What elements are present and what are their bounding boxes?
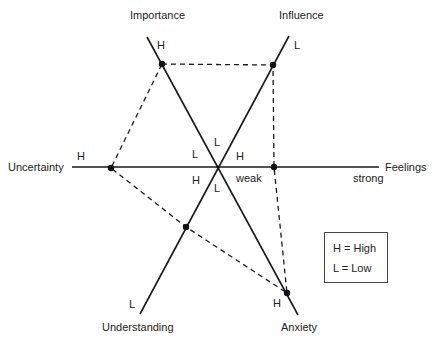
center-label-lower-left: H <box>192 174 200 186</box>
understanding-end-label: L <box>129 298 135 310</box>
center-label-upper-left: L <box>192 148 198 160</box>
center-label-weak: weak <box>235 172 262 184</box>
legend: H = High L = Low <box>325 233 388 283</box>
influence-label: Influence <box>279 9 324 21</box>
anxiety-point <box>284 290 290 296</box>
center-label-bottom: L <box>214 182 220 194</box>
importance-point <box>159 61 165 67</box>
center-point <box>216 165 219 168</box>
anxiety-label: Anxiety <box>281 321 318 333</box>
legend-low: L = Low <box>333 262 371 274</box>
understanding-label: Understanding <box>102 321 174 333</box>
feelings-end-label: strong <box>353 172 384 184</box>
feelings-label: Feelings <box>385 161 427 173</box>
influence-end-label: L <box>294 39 300 51</box>
anxiety-end-label: H <box>273 297 281 309</box>
legend-box <box>325 233 388 283</box>
importance-anxiety-axis <box>147 37 298 315</box>
feelings-point <box>271 164 277 170</box>
uncertainty-label: Uncertainty <box>8 161 64 173</box>
uncertainty-end-label: H <box>77 150 85 162</box>
uncertainty-point <box>108 165 114 171</box>
influence-understanding-axis <box>140 36 289 314</box>
influence-point <box>270 62 276 68</box>
importance-end-label: H <box>157 39 165 51</box>
center-label-upper-right: H <box>236 150 244 162</box>
legend-high: H = High <box>333 242 376 254</box>
profile-diagram: Importance Influence Uncertainty Feeling… <box>0 0 437 344</box>
understanding-point <box>183 224 189 230</box>
center-label-top: L <box>214 136 220 148</box>
importance-label: Importance <box>130 9 185 21</box>
